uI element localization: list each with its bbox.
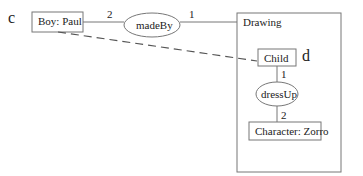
madeby-label: madeBy [136, 20, 173, 31]
boy-label: Boy: Paul [38, 16, 82, 27]
mult-dressup-character: 2 [281, 110, 287, 121]
label-d: d [302, 48, 310, 64]
mult-boy-madeby: 2 [107, 9, 113, 20]
child-label: Child [264, 53, 288, 64]
mult-madeby-drawing: 1 [189, 9, 195, 20]
dressup-label: dressUp [261, 89, 297, 100]
drawing-label: Drawing [243, 17, 282, 28]
mult-child-dressup: 1 [281, 69, 287, 80]
character-label: Character: Zorro [255, 126, 329, 137]
label-c: c [8, 10, 15, 26]
